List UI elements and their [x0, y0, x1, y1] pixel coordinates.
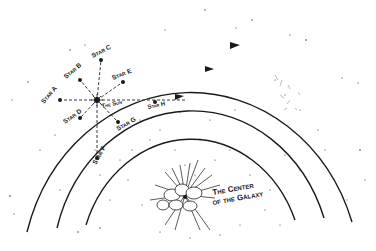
label-star-a: Star A — [39, 84, 58, 104]
galactic-center-icon — [150, 160, 220, 230]
galaxy-orbit-diagram: Star A Star B Star C Star D Star E Star … — [0, 0, 376, 251]
star-e-marker — [121, 80, 125, 84]
inner-orbit — [86, 139, 295, 225]
inner-orbit-arrow-icon — [175, 94, 184, 100]
dust-smudge — [275, 75, 300, 110]
label-star-c: Star C — [90, 43, 112, 59]
middle-orbit-arrow-icon — [205, 66, 214, 72]
label-star-d: Star D — [62, 107, 83, 125]
outer-orbit-arrow-icon — [230, 42, 240, 49]
label-star-e: Star E — [111, 67, 133, 81]
label-star-f: Star F — [91, 145, 107, 166]
label-star-h: Star H — [147, 100, 166, 110]
star-b-marker — [78, 78, 82, 82]
star-d-marker — [78, 116, 82, 120]
star-a-marker — [58, 98, 62, 102]
star-c-marker — [99, 58, 103, 62]
label-star-b: Star B — [62, 61, 83, 80]
